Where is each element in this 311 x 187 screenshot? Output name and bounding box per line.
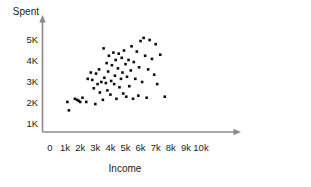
data-point xyxy=(136,50,139,53)
y-axis-arrow-icon xyxy=(39,15,45,23)
x-axis-title: Income xyxy=(109,163,142,174)
x-tick-label: 9k xyxy=(181,142,191,153)
data-point xyxy=(96,83,99,86)
data-point xyxy=(85,101,88,104)
data-point xyxy=(148,39,151,42)
data-points xyxy=(66,37,166,112)
data-point xyxy=(163,95,166,98)
data-point xyxy=(66,101,69,104)
y-axis xyxy=(39,15,45,132)
data-point xyxy=(121,71,124,74)
data-point xyxy=(151,58,154,61)
data-point xyxy=(126,75,129,78)
data-point xyxy=(114,74,117,77)
data-point xyxy=(109,93,112,96)
data-point xyxy=(127,59,130,62)
x-tick-label: 3k xyxy=(90,142,100,153)
data-point xyxy=(137,94,140,97)
data-point xyxy=(124,63,127,66)
data-point xyxy=(79,101,82,104)
data-point xyxy=(141,81,144,84)
data-point xyxy=(115,98,118,101)
x-tick-label: 8k xyxy=(166,142,176,153)
data-point xyxy=(147,68,150,71)
data-point xyxy=(114,59,117,62)
y-tick-labels: 1K2K3K4K5K xyxy=(26,34,38,129)
y-tick-label: 4K xyxy=(26,55,38,66)
data-point xyxy=(98,68,101,71)
data-point xyxy=(89,71,92,74)
data-point xyxy=(139,40,142,43)
data-point xyxy=(122,92,125,95)
data-point xyxy=(103,77,106,80)
x-tick-label: 4k xyxy=(105,142,115,153)
data-point xyxy=(100,81,103,84)
data-point xyxy=(144,54,147,57)
data-point xyxy=(113,83,116,86)
data-point xyxy=(117,67,120,70)
y-tick-label: 2K xyxy=(26,97,38,108)
data-point xyxy=(129,69,132,72)
data-point xyxy=(125,95,128,98)
data-point xyxy=(120,57,123,60)
x-tick-label: 0 xyxy=(47,142,52,153)
data-point xyxy=(134,78,137,81)
data-point xyxy=(159,53,162,56)
data-point xyxy=(102,47,105,50)
data-point xyxy=(92,87,95,90)
x-tick-label: 5k xyxy=(120,142,130,153)
y-tick-label: 5K xyxy=(26,34,38,45)
x-axis-arrow-icon xyxy=(234,129,242,135)
data-point xyxy=(110,80,113,83)
data-point xyxy=(112,51,115,54)
data-point xyxy=(81,96,84,99)
data-point xyxy=(132,98,135,101)
y-tick-label: 3K xyxy=(26,76,38,87)
data-point xyxy=(107,70,110,73)
scatter-chart: 1K2K3K4K5K 01k2k3k4k5k6k7k8k9k10k Spent … xyxy=(0,0,311,187)
data-point xyxy=(138,66,141,69)
plot-area: 1K2K3K4K5K 01k2k3k4k5k6k7k8k9k10k Spent … xyxy=(0,0,311,187)
x-axis xyxy=(43,129,242,135)
x-tick-label: 1k xyxy=(60,142,70,153)
data-point xyxy=(156,83,159,86)
x-tick-labels: 01k2k3k4k5k6k7k8k9k10k xyxy=(47,142,209,153)
y-tick-label: 1K xyxy=(26,118,38,129)
data-point xyxy=(145,96,148,99)
data-point xyxy=(133,61,136,64)
data-point xyxy=(118,86,121,89)
data-point xyxy=(120,78,123,81)
data-point xyxy=(106,89,109,92)
data-point xyxy=(111,64,114,67)
data-point xyxy=(105,62,108,65)
data-point xyxy=(108,54,111,57)
data-point xyxy=(91,79,94,82)
data-point xyxy=(95,72,98,75)
data-point xyxy=(142,37,145,40)
x-tick-label: 2k xyxy=(75,142,85,153)
data-point xyxy=(74,98,77,101)
x-tick-label: 6k xyxy=(136,142,146,153)
data-point xyxy=(123,49,126,52)
data-point xyxy=(99,91,102,94)
data-point xyxy=(102,99,105,102)
data-point xyxy=(154,43,157,46)
data-point xyxy=(68,109,71,112)
y-axis-title: Spent xyxy=(13,6,39,17)
x-tick-label: 10k xyxy=(193,142,209,153)
data-point xyxy=(105,82,108,85)
data-point xyxy=(128,85,131,88)
data-point xyxy=(153,73,156,76)
data-point xyxy=(130,45,133,48)
data-point xyxy=(94,103,97,106)
data-point xyxy=(117,52,120,55)
data-point xyxy=(86,78,89,81)
x-tick-label: 7k xyxy=(151,142,161,153)
